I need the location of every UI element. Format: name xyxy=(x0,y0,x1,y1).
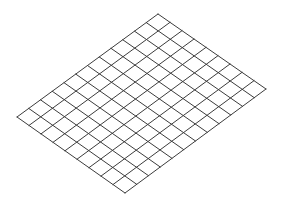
grid-line-row xyxy=(64,83,172,159)
grid-line-row xyxy=(17,117,125,193)
grid-line-row xyxy=(76,74,184,150)
grid-line-row xyxy=(29,108,137,184)
grid-line-col xyxy=(65,47,206,150)
grid-line-col xyxy=(53,39,194,142)
grid-line-col xyxy=(89,64,230,168)
grid-line-col xyxy=(77,56,218,160)
grid-line-col xyxy=(113,81,254,185)
grid-line-col xyxy=(125,89,266,193)
grid-lines xyxy=(17,14,266,193)
grid-line-col xyxy=(29,22,170,125)
grid-line-col xyxy=(17,14,158,117)
grid-line-row xyxy=(52,91,160,167)
grid-line-row xyxy=(41,100,149,176)
grid-line-col xyxy=(41,31,182,134)
grid-line-col xyxy=(101,72,242,176)
isometric-grid xyxy=(0,0,282,211)
